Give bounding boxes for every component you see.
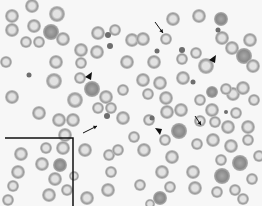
red-blood-cell bbox=[128, 131, 140, 143]
red-blood-cell bbox=[246, 173, 258, 185]
red-blood-cell bbox=[206, 133, 220, 147]
red-blood-cell bbox=[194, 94, 206, 106]
red-blood-cell bbox=[66, 113, 80, 127]
platelet-body bbox=[191, 80, 196, 85]
red-blood-cell bbox=[14, 147, 28, 161]
red-blood-cell bbox=[153, 76, 167, 90]
red-blood-cell bbox=[220, 83, 232, 95]
red-blood-cell bbox=[80, 191, 94, 205]
red-blood-cell bbox=[35, 157, 49, 171]
red-blood-cell bbox=[42, 188, 56, 202]
red-blood-cell bbox=[5, 90, 19, 104]
red-blood-cell bbox=[58, 128, 72, 142]
platelet-body bbox=[105, 32, 111, 38]
platelet-body bbox=[150, 116, 155, 121]
red-blood-cell bbox=[53, 158, 67, 172]
red-blood-cell bbox=[192, 9, 206, 23]
red-blood-cell bbox=[105, 166, 117, 178]
red-blood-cell bbox=[117, 84, 129, 96]
red-blood-cell bbox=[176, 53, 188, 65]
red-blood-cell bbox=[164, 181, 176, 193]
red-blood-cell bbox=[112, 144, 124, 156]
red-blood-cell bbox=[171, 123, 187, 139]
red-blood-cell bbox=[32, 106, 46, 120]
red-blood-cell bbox=[46, 73, 62, 89]
red-blood-cell bbox=[52, 113, 66, 127]
red-blood-cell bbox=[5, 9, 19, 23]
red-blood-cell bbox=[116, 111, 130, 125]
red-blood-cell bbox=[74, 72, 86, 84]
red-blood-cell bbox=[236, 81, 250, 95]
red-blood-cell bbox=[176, 71, 190, 85]
red-blood-cell bbox=[191, 138, 203, 150]
red-blood-cell bbox=[206, 86, 218, 98]
red-blood-cell bbox=[49, 55, 63, 69]
platelet-body bbox=[216, 28, 221, 33]
red-blood-cell bbox=[101, 183, 115, 197]
red-blood-cell bbox=[209, 116, 221, 128]
red-blood-cell bbox=[105, 102, 117, 114]
red-blood-cell bbox=[61, 184, 73, 196]
red-blood-cell bbox=[205, 103, 219, 117]
red-blood-cell bbox=[92, 102, 104, 114]
red-blood-cell bbox=[120, 55, 134, 69]
red-blood-cell bbox=[230, 107, 242, 119]
red-blood-cell bbox=[211, 186, 223, 198]
red-blood-cell bbox=[243, 33, 257, 47]
red-blood-cell bbox=[27, 19, 41, 33]
red-blood-cell bbox=[160, 33, 172, 45]
red-blood-cell bbox=[67, 92, 83, 108]
red-blood-cell bbox=[56, 32, 70, 46]
red-blood-cell bbox=[188, 181, 202, 195]
red-blood-cell bbox=[159, 91, 173, 105]
red-blood-cell bbox=[136, 73, 150, 87]
platelet-body bbox=[179, 47, 185, 53]
red-blood-cell bbox=[56, 141, 70, 155]
red-blood-cell bbox=[159, 134, 171, 146]
red-blood-cell bbox=[75, 57, 87, 69]
platelet-body bbox=[104, 113, 110, 119]
red-blood-cell bbox=[186, 165, 200, 179]
red-blood-cell bbox=[153, 191, 167, 205]
red-blood-cell bbox=[33, 36, 45, 48]
red-blood-cell bbox=[215, 31, 229, 45]
red-blood-cell bbox=[241, 120, 255, 134]
red-blood-cell bbox=[0, 56, 12, 68]
red-blood-cell bbox=[48, 172, 62, 186]
red-blood-cell bbox=[91, 26, 105, 40]
platelet-body bbox=[27, 73, 32, 78]
red-blood-cell bbox=[214, 168, 230, 184]
red-blood-cell bbox=[215, 154, 227, 166]
red-blood-cell bbox=[190, 47, 202, 59]
red-blood-cell bbox=[40, 142, 52, 154]
red-blood-cell bbox=[174, 103, 188, 117]
blood-smear-image bbox=[0, 0, 262, 206]
red-blood-cell bbox=[7, 180, 19, 192]
red-blood-cell bbox=[84, 81, 100, 97]
red-blood-cell bbox=[99, 90, 113, 104]
red-blood-cell bbox=[90, 45, 104, 59]
red-blood-cell bbox=[134, 179, 146, 191]
red-blood-cell bbox=[237, 193, 249, 205]
red-blood-cell bbox=[136, 32, 150, 46]
red-blood-cell bbox=[214, 12, 228, 26]
red-blood-cell bbox=[165, 150, 179, 164]
red-blood-cell bbox=[232, 155, 248, 171]
red-blood-cell bbox=[229, 184, 241, 196]
red-blood-cell bbox=[5, 23, 19, 37]
red-blood-cell bbox=[69, 171, 79, 181]
red-blood-cell bbox=[74, 43, 88, 57]
red-blood-cell bbox=[137, 143, 151, 157]
micrograph-canvas bbox=[0, 0, 262, 206]
red-blood-cell bbox=[142, 88, 154, 100]
red-blood-cell bbox=[248, 94, 260, 106]
red-blood-cell bbox=[2, 194, 14, 206]
red-blood-cell bbox=[221, 120, 235, 134]
red-blood-cell bbox=[246, 59, 260, 73]
platelet-body bbox=[107, 43, 113, 49]
platelet-body bbox=[155, 49, 160, 54]
platelet-body bbox=[224, 110, 228, 114]
red-blood-cell bbox=[155, 165, 169, 179]
red-blood-cell bbox=[20, 36, 32, 48]
red-blood-cell bbox=[49, 6, 65, 22]
